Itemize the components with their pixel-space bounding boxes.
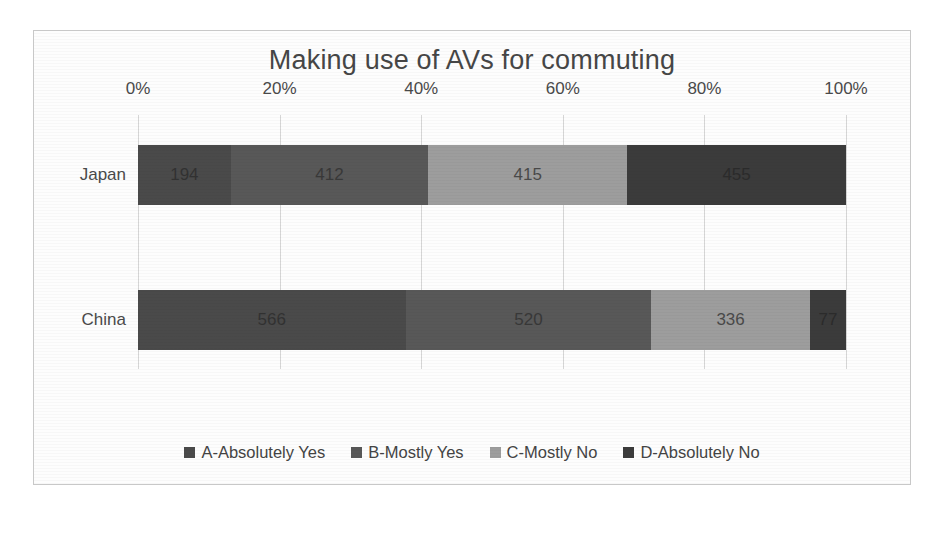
bar-segment-china-d: 77 [810, 290, 846, 350]
legend-label-a: A-Absolutely Yes [201, 443, 325, 462]
legend-label-c: C-Mostly No [507, 443, 598, 462]
category-label-japan: Japan [80, 165, 126, 185]
bar-value-china-c: 336 [716, 310, 744, 330]
legend-label-b: B-Mostly Yes [368, 443, 463, 462]
plot-area: 0% 20% 40% 60% 80% 100% Japan 194 412 41… [138, 115, 846, 405]
bar-segment-china-a: 566 [138, 290, 406, 350]
legend-swatch-d-icon [623, 447, 634, 458]
bar-segment-japan-b: 412 [231, 145, 429, 205]
chart-frame: Making use of AVs for commuting 0% 20% 4… [33, 30, 911, 485]
bar-china: 566 520 336 77 [138, 290, 846, 350]
bar-value-japan-a: 194 [170, 165, 198, 185]
legend-item-c[interactable]: C-Mostly No [490, 443, 598, 462]
x-axis-tick-40: 40% [404, 79, 438, 99]
chart-legend: A-Absolutely Yes B-Mostly Yes C-Mostly N… [34, 443, 910, 462]
bar-value-china-b: 520 [514, 310, 542, 330]
x-axis-tick-80: 80% [687, 79, 721, 99]
x-axis-tick-60: 60% [546, 79, 580, 99]
bar-value-japan-c: 415 [514, 165, 542, 185]
chart-title: Making use of AVs for commuting [34, 45, 910, 76]
legend-swatch-a-icon [184, 447, 195, 458]
bar-segment-japan-d: 455 [627, 145, 846, 205]
x-axis-tick-0: 0% [126, 79, 151, 99]
bar-segment-japan-a: 194 [138, 145, 231, 205]
legend-swatch-b-icon [351, 447, 362, 458]
bar-value-japan-d: 455 [722, 165, 750, 185]
bar-value-japan-b: 412 [315, 165, 343, 185]
bar-segment-japan-c: 415 [428, 145, 627, 205]
x-axis-tick-20: 20% [263, 79, 297, 99]
legend-item-d[interactable]: D-Absolutely No [623, 443, 759, 462]
bar-value-china-a: 566 [258, 310, 286, 330]
category-label-china: China [82, 310, 126, 330]
legend-label-d: D-Absolutely No [640, 443, 759, 462]
legend-item-a[interactable]: A-Absolutely Yes [184, 443, 325, 462]
legend-swatch-c-icon [490, 447, 501, 458]
bar-japan: 194 412 415 455 [138, 145, 846, 205]
gridline-100 [846, 115, 847, 369]
x-axis-tick-100: 100% [824, 79, 867, 99]
bar-segment-china-c: 336 [651, 290, 810, 350]
bar-value-china-d: 77 [818, 310, 837, 330]
bar-segment-china-b: 520 [406, 290, 652, 350]
legend-item-b[interactable]: B-Mostly Yes [351, 443, 463, 462]
